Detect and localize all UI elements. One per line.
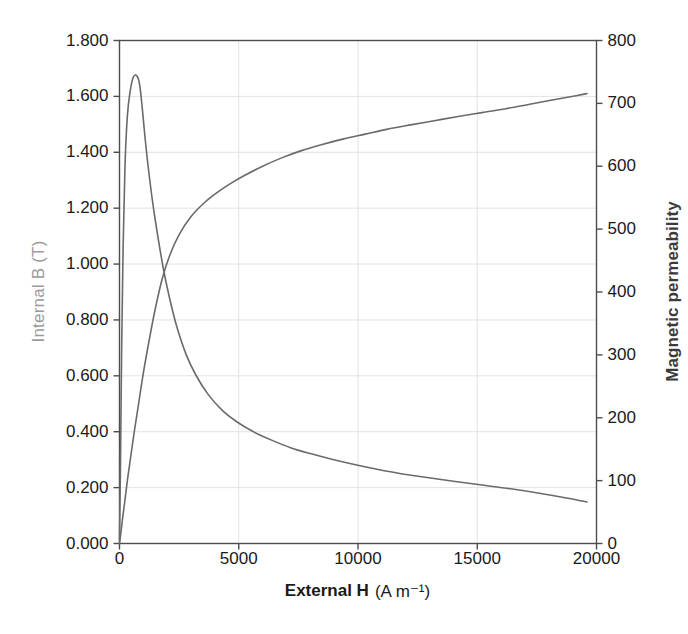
right-tick-label: 100 [608, 471, 678, 491]
left-tick-label: 1.400 [29, 142, 109, 162]
x-tick-label: 20000 [573, 549, 620, 569]
left-tick-label: 0.600 [29, 366, 109, 386]
chart-figure: Internal B (T) Magnetic permeability Ext… [0, 0, 688, 634]
left-tick-label: 1.800 [29, 31, 109, 51]
series-line-1 [120, 94, 587, 544]
data-curves [120, 75, 587, 543]
series-line-2 [120, 75, 587, 540]
left-tick-label: 1.600 [29, 86, 109, 106]
left-tick-label: 0.800 [29, 310, 109, 330]
left-tick-label: 0.000 [29, 534, 109, 554]
x-tick-label: 15000 [454, 549, 501, 569]
gridlines [120, 41, 597, 544]
right-tick-label: 700 [608, 93, 678, 113]
left-tick-label: 1.000 [29, 254, 109, 274]
left-tick-label: 0.200 [29, 478, 109, 498]
x-tick-label: 5000 [220, 549, 258, 569]
right-tick-label: 500 [608, 219, 678, 239]
left-tick-label: 1.200 [29, 198, 109, 218]
right-tick-label: 200 [608, 408, 678, 428]
x-tick-label: 10000 [334, 549, 381, 569]
left-tick-label: 0.400 [29, 422, 109, 442]
right-tick-label: 300 [608, 345, 678, 365]
right-tick-label: 400 [608, 282, 678, 302]
x-tick-label: 0 [115, 549, 124, 569]
right-tick-label: 600 [608, 156, 678, 176]
right-tick-label: 800 [608, 31, 678, 51]
